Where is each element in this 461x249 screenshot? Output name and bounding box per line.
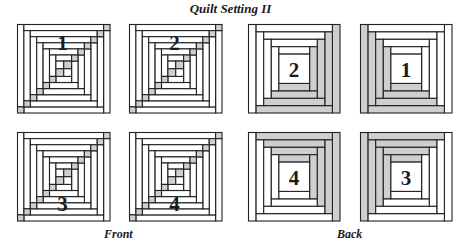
strip-left (383, 47, 391, 91)
strip (130, 25, 136, 107)
strip (196, 49, 202, 95)
strip (142, 101, 209, 107)
corner-square (30, 203, 36, 209)
strip-right (325, 140, 333, 214)
center-square (176, 169, 184, 177)
corner-square (190, 49, 196, 55)
strip (136, 139, 142, 209)
strip (43, 49, 49, 83)
strip-right (332, 133, 340, 222)
strip (149, 151, 155, 197)
strip-left (368, 140, 376, 214)
corner-square (72, 55, 78, 61)
corner-square (97, 31, 103, 37)
strip-top (376, 140, 437, 147)
corner-square (162, 184, 168, 190)
strip (136, 25, 216, 31)
strip-top (271, 147, 317, 154)
center-square (168, 177, 176, 185)
strip-left (376, 39, 384, 98)
front-block-1: 1 (17, 24, 111, 114)
strip (162, 157, 191, 163)
strip-right (429, 39, 437, 98)
strip (136, 31, 142, 101)
strip (24, 31, 30, 101)
strip-left (271, 155, 279, 199)
strip-left (271, 47, 279, 91)
strip (24, 107, 104, 113)
strip (155, 157, 161, 191)
strip (30, 37, 36, 95)
center-square (176, 177, 184, 185)
corner-square (78, 157, 84, 163)
strip (142, 145, 148, 203)
corner-square (149, 197, 155, 203)
corner-square (216, 25, 222, 31)
strip (37, 151, 43, 197)
corner-square (203, 145, 209, 151)
strip (190, 163, 196, 197)
strip-left (264, 39, 272, 98)
back-block-4: 4 (248, 132, 341, 222)
strip (155, 49, 161, 83)
strip (84, 157, 90, 203)
strip (24, 25, 104, 31)
strip-bottom (264, 206, 325, 213)
strip-right (310, 47, 318, 91)
strip (209, 37, 215, 107)
strip (78, 163, 84, 197)
strip (168, 184, 184, 190)
strip (43, 157, 49, 191)
strip (136, 133, 216, 139)
front-block-2: 2 (129, 24, 223, 114)
strip (91, 151, 97, 209)
corner-square (50, 184, 56, 190)
strip (43, 89, 84, 95)
strip (18, 133, 24, 215)
corner-square (155, 191, 161, 197)
strip (78, 55, 84, 89)
corner-square (37, 197, 43, 203)
strip (24, 139, 30, 209)
strip (30, 101, 97, 107)
corner-square (209, 31, 215, 37)
strip (149, 145, 203, 151)
strip (149, 95, 203, 101)
strip-bottom (368, 106, 444, 113)
center-square (64, 169, 72, 177)
strip (18, 25, 24, 107)
corner-square (84, 151, 90, 157)
corner-square (104, 25, 110, 31)
corner-square (18, 107, 24, 113)
strip-left (368, 32, 376, 106)
block-number: 4 (169, 192, 180, 216)
strip-left (256, 140, 264, 214)
strip (216, 139, 222, 221)
strip-left (249, 133, 257, 222)
corner-square (155, 83, 161, 89)
corner-square (130, 107, 136, 113)
strip-right (444, 25, 452, 114)
center-square (176, 69, 184, 77)
corner-square (209, 139, 215, 145)
strip (149, 43, 155, 89)
strip (162, 163, 168, 184)
strip (203, 43, 209, 101)
strip-bottom (264, 98, 325, 105)
strip (203, 151, 209, 209)
corner-square (190, 157, 196, 163)
strip-right (310, 155, 318, 199)
strip-right (422, 155, 430, 199)
strip (56, 184, 72, 190)
strip-left (249, 25, 257, 114)
corner-square (97, 139, 103, 145)
strip-bottom (256, 106, 332, 113)
strip (130, 133, 136, 215)
center-square (56, 177, 64, 185)
strip (50, 157, 79, 163)
strip (37, 43, 43, 89)
strip (209, 145, 215, 215)
corner-square (18, 215, 24, 221)
strip-bottom (368, 214, 444, 221)
strip (184, 61, 190, 82)
